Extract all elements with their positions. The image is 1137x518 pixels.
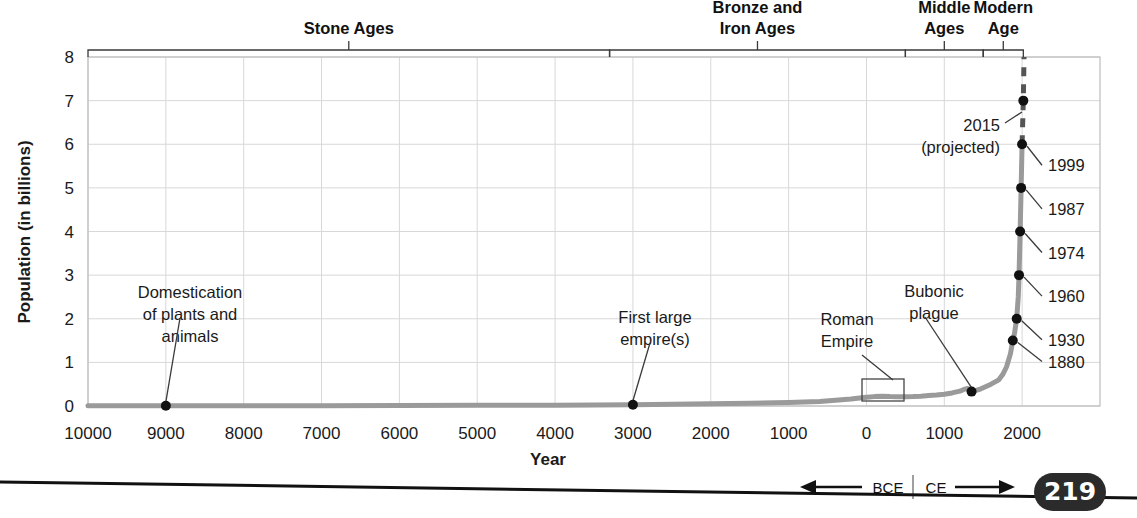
milestone-label: 1999 [1048,156,1085,174]
era-label: Stone Ages [304,19,394,37]
milestone-label: 1930 [1048,331,1085,349]
annotation-label: Empire [821,332,873,350]
milestone-label: 1880 [1048,353,1085,371]
y-tick-label: 6 [65,135,74,154]
milestone-dot [1008,336,1018,346]
era-label: Iron Ages [720,19,795,37]
gridlines [88,57,1100,406]
milestone-dot [1017,139,1027,149]
y-tick-label: 0 [65,397,74,416]
x-tick-label: 10000 [64,424,111,443]
ce-label: CE [926,479,947,496]
x-tick-label: 3000 [614,424,652,443]
x-axis-ticks: 1000090008000700060005000400030002000100… [64,424,1041,443]
annotation-label: plague [909,304,959,322]
y-axis-ticks: 012345678 [65,48,74,416]
y-tick-label: 4 [65,223,74,242]
annotation-label: (projected) [921,138,1000,156]
annotation-label: First large [618,308,691,326]
annotation-dot [967,387,977,397]
annotation-leader-line [1005,112,1022,123]
x-axis-title: Year [530,450,566,469]
milestone-dot [1016,183,1026,193]
milestone-dot [1012,314,1022,324]
footer-rule [0,482,1137,498]
x-tick-label: 0 [862,424,871,443]
era-label: Age [988,19,1019,37]
annotation-leader-line [633,343,650,401]
milestone-leader-line [1025,234,1042,253]
era-bracket [88,50,610,57]
era-bracket [905,50,983,57]
page-number-badge: 219 [1034,473,1106,511]
x-tick-label: 2000 [1003,424,1041,443]
era-bracket [983,50,1023,57]
era-bracket [610,50,906,57]
y-tick-label: 2 [65,310,74,329]
annotation-label: Bubonic [904,282,964,300]
era-label: Modern [973,0,1033,16]
milestone-dot [1014,270,1024,280]
y-tick-label: 8 [65,48,74,67]
annotation-label: empire(s) [620,330,690,348]
x-tick-label: 5000 [458,424,496,443]
y-axis-title: Population (in billions) [15,140,34,323]
x-tick-label: 6000 [380,424,418,443]
x-tick-label: 2000 [692,424,730,443]
milestone-label: 1960 [1048,287,1085,305]
milestone-leader-line [1024,277,1042,296]
era-brackets: Stone AgesBronze andIron AgesMiddleAgesM… [88,0,1033,57]
milestone-label: 1974 [1048,244,1085,262]
annotation-dot [628,400,638,410]
y-tick-label: 5 [65,179,74,198]
x-tick-label: 7000 [303,424,341,443]
era-label: Middle [918,0,970,16]
milestone-dot [1015,227,1025,237]
annotation-dot [161,401,171,411]
annotation-label: animals [162,327,219,345]
chart-page: 012345678 100009000800070006000500040003… [0,0,1137,518]
ce-arrow-head [999,480,1015,494]
y-tick-label: 7 [65,92,74,111]
milestone-leader-line [1018,343,1042,362]
x-tick-label: 1000 [770,424,808,443]
x-tick-label: 4000 [536,424,574,443]
y-tick-label: 1 [65,353,74,372]
milestone-leader-line [1022,321,1042,340]
x-tick-label: 8000 [225,424,263,443]
milestone-leader-line [1027,146,1042,165]
era-label: Bronze and [713,0,803,16]
x-tick-label: 9000 [147,424,185,443]
population-growth-chart: 012345678 100009000800070006000500040003… [0,0,1137,518]
annotation-label: Domestication [138,283,243,301]
annotation-label: of plants and [143,305,238,323]
annotation-label: 2015 [963,116,1000,134]
annotation-leader-line [925,317,972,388]
chart-annotations: Domesticationof plants andanimalsFirst l… [138,96,1029,411]
x-tick-label: 1000 [925,424,963,443]
annotation-label: Roman [820,310,873,328]
era-label: Ages [924,19,964,37]
annotation-dot [1018,96,1028,106]
milestone-label: 1987 [1048,200,1085,218]
y-tick-label: 3 [65,266,74,285]
milestone-leader-line [1026,190,1042,209]
page-number-text: 219 [1044,477,1096,506]
